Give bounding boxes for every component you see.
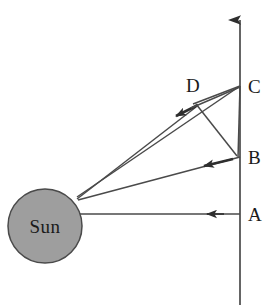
- point-label-a: A: [248, 204, 262, 225]
- point-label-d: D: [186, 75, 200, 96]
- sun-to-b-arrowhead: [204, 159, 233, 166]
- sun-geometry-diagram: Sun A B C D: [0, 0, 272, 307]
- sun-label: Sun: [29, 216, 60, 237]
- point-label-b: B: [248, 147, 261, 168]
- diagram-canvas: Sun A B C D: [0, 0, 272, 307]
- b-to-d-segment: [196, 104, 237, 156]
- point-label-c: C: [248, 76, 261, 97]
